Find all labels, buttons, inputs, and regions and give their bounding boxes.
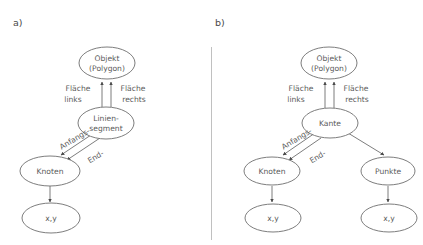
edge-label-flaeche-links-line1: Fläche	[289, 84, 314, 93]
edge-label-flaeche-rechts-line2: rechts	[345, 95, 369, 104]
edge-label-flaeche-links: Fläche links	[64, 84, 90, 104]
panel-b: b) Objekt (Polygon) Kante	[215, 17, 417, 232]
node-xy-right-label: x,y	[383, 214, 395, 223]
node-knoten-label: Knoten	[37, 167, 64, 176]
node-objekt-polygon-label-line1: Objekt	[95, 54, 120, 63]
node-objekt-polygon-label-line2: (Polygon)	[89, 64, 125, 73]
edge-kante-punkte-arrow	[348, 133, 384, 155]
node-knoten-label: Knoten	[259, 167, 286, 176]
node-objekt-polygon-shape	[79, 47, 135, 79]
node-objekt-polygon-shape	[301, 47, 357, 79]
edge-label-flaeche-rechts: Fläche rechts	[344, 84, 369, 104]
node-objekt-polygon[interactable]: Objekt (Polygon)	[79, 47, 135, 79]
node-kante-label: Kante	[319, 119, 341, 128]
edge-label-flaeche-rechts-line1: Fläche	[121, 84, 146, 93]
node-xy-label: x,y	[45, 214, 57, 223]
panel-a-letter: a)	[13, 17, 23, 28]
entity-relationship-diagram: a) Objekt (Polygon) Linien- segment	[0, 0, 423, 245]
edge-label-anfangs: Anfangs-	[280, 126, 314, 151]
edge-label-flaeche-links-line2: links	[287, 95, 304, 104]
figure-canvas: a) Objekt (Polygon) Linien- segment	[0, 0, 423, 245]
node-knoten[interactable]: Knoten	[20, 156, 80, 186]
node-xy-left-label: x,y	[267, 214, 279, 223]
node-punkte-label: Punkte	[375, 167, 401, 176]
node-objekt-polygon[interactable]: Objekt (Polygon)	[301, 47, 357, 79]
node-objekt-polygon-label-line2: (Polygon)	[311, 64, 347, 73]
edge-label-flaeche-rechts: Fläche rechts	[121, 84, 146, 104]
node-punkte[interactable]: Punkte	[361, 157, 415, 185]
edge-label-flaeche-links: Fläche links	[287, 84, 313, 104]
node-xy-right[interactable]: x,y	[361, 204, 417, 232]
panel-b-letter: b)	[215, 17, 225, 28]
edge-label-end: End-	[86, 148, 106, 165]
panel-a: a) Objekt (Polygon) Linien- segment	[13, 17, 146, 233]
node-xy[interactable]: x,y	[22, 203, 80, 233]
edge-label-flaeche-links-line1: Fläche	[66, 84, 91, 93]
edge-label-flaeche-rechts-line2: rechts	[122, 95, 146, 104]
node-liniensegment-label-line1: Linien-	[93, 114, 119, 123]
node-xy-left[interactable]: x,y	[245, 204, 301, 232]
edge-label-anfangs: Anfangs-	[58, 126, 92, 151]
edge-label-flaeche-rechts-line1: Fläche	[344, 84, 369, 93]
node-knoten[interactable]: Knoten	[244, 157, 300, 185]
node-liniensegment-label-line2: segment	[89, 124, 122, 133]
node-objekt-polygon-label-line1: Objekt	[317, 54, 342, 63]
edge-label-end: End-	[308, 148, 328, 165]
edge-label-flaeche-links-line2: links	[64, 95, 81, 104]
